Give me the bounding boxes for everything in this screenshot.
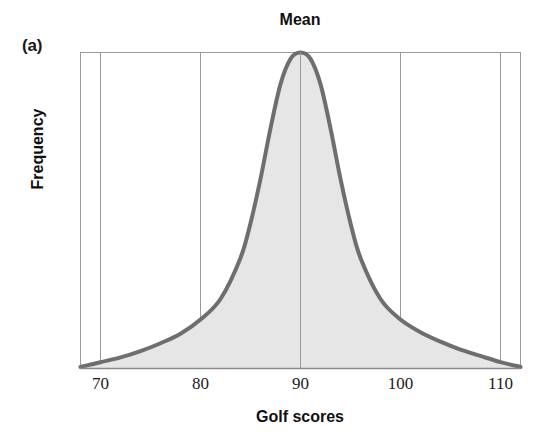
x-tick-label-80: 80 xyxy=(171,374,231,394)
chart-title: Mean xyxy=(80,11,520,29)
y-axis-title: Frequency xyxy=(29,89,47,209)
panel-label: (a) xyxy=(22,36,42,56)
x-axis-title: Golf scores xyxy=(80,408,520,426)
x-tick-label-100: 100 xyxy=(371,374,431,394)
figure-container: (a) Mean Frequency Golf scores 708090100… xyxy=(0,0,541,442)
x-tick-label-70: 70 xyxy=(71,374,131,394)
x-tick-label-110: 110 xyxy=(471,374,531,394)
x-tick-label-90: 90 xyxy=(271,374,331,394)
